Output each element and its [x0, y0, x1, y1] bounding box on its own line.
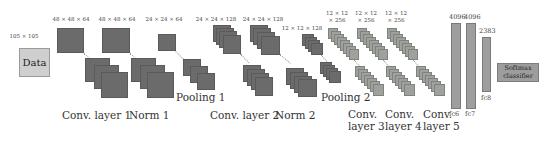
conv4-dims-line2: × 256: [351, 17, 381, 23]
fc7-units: 4096: [464, 13, 481, 21]
norm2-label: Norm 2: [275, 109, 316, 121]
conv5-label-line2: layer 5: [423, 120, 460, 132]
pool1-filter-square: [158, 34, 176, 51]
norm2-dims: 24 × 24 × 128: [241, 16, 285, 22]
pool1-map: [197, 73, 215, 90]
conv2-map: [255, 77, 273, 96]
norm2-map: [298, 79, 317, 97]
conv3-label-line1: Conv.: [348, 108, 385, 120]
norm1-map: [147, 72, 174, 98]
conv3-dims-line2: × 256: [322, 17, 352, 23]
conv4-map: [404, 84, 415, 96]
norm1-dims: 48 × 48 × 64: [97, 16, 137, 22]
conv1-filter-square: [57, 28, 84, 53]
conv3-label-line2: layer 3: [348, 120, 385, 132]
connector-line: [279, 54, 290, 64]
fc6-bar: [451, 23, 461, 109]
conv4-dims-line1: 12 × 12: [351, 10, 381, 16]
conv2-filter: [223, 35, 241, 54]
pool2-map: [329, 71, 341, 83]
conv4-label-line2: layer 4: [385, 120, 422, 132]
conv2-label: Conv. layer 2: [210, 109, 279, 121]
softmax-line2: classifier: [503, 73, 533, 81]
conv4-filter: [378, 49, 388, 60]
pool1-label: Pooling 1: [176, 91, 226, 103]
connector-line: [240, 54, 249, 63]
fc8-bar: [482, 37, 491, 92]
norm1-label: Norm 1: [129, 109, 170, 121]
fc7-bar: [466, 23, 476, 109]
conv5-map: [434, 84, 445, 96]
softmax-classifier-box: Softmax classifier: [497, 63, 539, 82]
conv1-label: Conv. layer 1: [62, 109, 131, 121]
pool2-filter: [311, 43, 323, 55]
conv3-filter: [349, 49, 359, 60]
connector-line: [321, 55, 327, 62]
conv4-label-line1: Conv.: [385, 108, 422, 120]
cnn-architecture-diagram: 105 × 105 Data 48 × 48 × 64 48 × 48 × 64…: [0, 0, 553, 146]
conv1-dims: 48 × 48 × 64: [51, 16, 91, 22]
norm2-filter: [261, 36, 280, 55]
norm1-filter-square: [102, 28, 130, 53]
fc8-units: 2383: [479, 27, 496, 35]
pool2-label: Pooling 2: [321, 91, 371, 103]
data-label: Data: [23, 57, 47, 68]
conv3-dims-line1: 12 × 12: [322, 10, 352, 16]
conv3-map: [373, 84, 384, 96]
pool2-dims: 12 × 12 × 128: [277, 25, 327, 31]
input-size-label: 105 × 105: [6, 33, 42, 39]
conv2-dims: 24 × 24 × 128: [194, 16, 238, 22]
conv5-dims-line1: 12 × 12: [381, 10, 411, 16]
fc7-label: fc7: [465, 110, 475, 118]
fc8-label: fc8: [481, 94, 491, 102]
conv5-filter: [408, 49, 418, 60]
conv3-label: Conv. layer 3: [348, 108, 385, 132]
pool1-dims: 24 × 24 × 64: [145, 16, 183, 22]
conv4-label: Conv. layer 4: [385, 108, 422, 132]
data-input-box: Data: [19, 48, 50, 77]
fc6-label: fc6: [449, 110, 459, 118]
conv1-map: [101, 72, 128, 98]
conv5-dims-line2: × 256: [381, 17, 411, 23]
